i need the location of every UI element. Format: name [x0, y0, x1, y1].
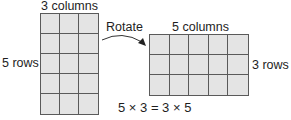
grid-cell [60, 54, 79, 74]
grid-cell [189, 75, 209, 95]
left-array-grid [40, 13, 99, 115]
grid-cell [209, 55, 229, 75]
grid-cell [79, 54, 98, 74]
curved-arrow-icon [100, 30, 148, 50]
grid-cell [150, 55, 170, 75]
grid-cell [60, 94, 79, 114]
grid-cell [60, 34, 79, 54]
grid-cell [60, 14, 79, 34]
grid-cell [41, 54, 60, 74]
right-columns-label: 5 columns [172, 20, 229, 34]
right-array-grid [149, 34, 249, 96]
grid-cell [41, 14, 60, 34]
grid-cell [150, 35, 170, 55]
grid-cell [79, 74, 98, 94]
left-columns-label: 3 columns [41, 0, 98, 13]
grid-cell [41, 74, 60, 94]
left-rows-label: 5 rows [2, 56, 39, 70]
grid-cell [79, 14, 98, 34]
grid-cell [41, 94, 60, 114]
grid-cell [170, 55, 190, 75]
commutative-equation: 5 × 3 = 3 × 5 [118, 101, 191, 115]
grid-cell [209, 75, 229, 95]
grid-cell [170, 35, 190, 55]
grid-cell [228, 35, 248, 55]
grid-cell [228, 55, 248, 75]
grid-cell [79, 94, 98, 114]
grid-cell [60, 74, 79, 94]
grid-cell [79, 34, 98, 54]
grid-cell [41, 34, 60, 54]
grid-cell [170, 75, 190, 95]
grid-cell [189, 35, 209, 55]
grid-cell [228, 75, 248, 95]
grid-cell [189, 55, 209, 75]
right-rows-label: 3 rows [252, 58, 289, 72]
grid-cell [150, 75, 170, 95]
grid-cell [209, 35, 229, 55]
